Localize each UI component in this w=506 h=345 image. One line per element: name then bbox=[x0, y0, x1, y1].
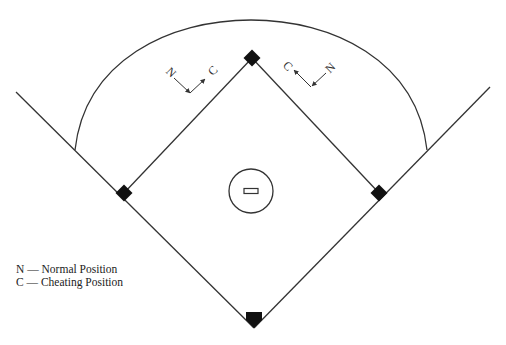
left-position-markers: N C bbox=[163, 63, 220, 93]
basepath-third-to-second bbox=[124, 58, 252, 193]
left-normal-label: N bbox=[163, 64, 179, 80]
legend-item-cheating: C — Cheating Position bbox=[16, 276, 123, 289]
right-normal-arrow bbox=[312, 73, 326, 86]
right-normal-label: N bbox=[322, 60, 338, 76]
right-position-markers: C N bbox=[280, 58, 338, 87]
left-cheating-label: C bbox=[205, 63, 221, 79]
left-cheating-arrow bbox=[190, 79, 205, 93]
outfield-fence-arc bbox=[75, 20, 427, 150]
right-cheating-arrow bbox=[294, 70, 311, 87]
pitchers-rubber bbox=[244, 189, 258, 194]
home-plate bbox=[246, 312, 262, 328]
left-foul-line bbox=[16, 92, 254, 328]
right-cheating-label: C bbox=[280, 58, 296, 74]
basepath-second-to-first bbox=[252, 58, 379, 193]
baseball-field-diagram: N C C N bbox=[0, 0, 506, 345]
legend: N — Normal Position C — Cheating Positio… bbox=[16, 263, 123, 289]
right-foul-line bbox=[254, 87, 490, 328]
legend-item-normal: N — Normal Position bbox=[16, 263, 123, 276]
left-normal-arrow bbox=[174, 78, 190, 93]
